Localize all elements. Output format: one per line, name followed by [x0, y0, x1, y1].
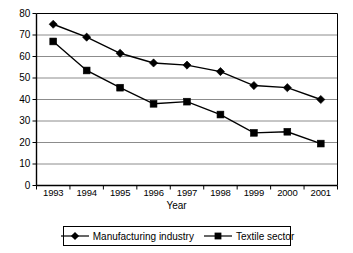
x-tick-label: 2001: [301, 188, 341, 198]
plot-canvas: [0, 0, 353, 253]
legend-label: Textile sector: [236, 231, 294, 242]
data-series-layer: [49, 20, 325, 147]
y-tick-label: 50: [4, 73, 30, 83]
y-tick-label: 10: [4, 159, 30, 169]
legend-diamond-marker-icon: [60, 230, 90, 242]
chart-legend: Manufacturing industryTextile sector: [63, 226, 291, 246]
x-axis-title: Year: [0, 200, 353, 211]
y-tick-label: 60: [4, 52, 30, 62]
line-chart: 80706050403020100 1993199419951996199719…: [0, 0, 353, 253]
legend-item-manufacturing-industry[interactable]: Manufacturing industry: [60, 230, 194, 242]
y-tick-label: 0: [4, 181, 30, 191]
y-tick-label: 70: [4, 30, 30, 40]
legend-item-textile-sector[interactable]: Textile sector: [203, 230, 294, 242]
y-tick-label: 40: [4, 95, 30, 105]
legend-square-marker-icon: [203, 230, 233, 242]
y-tick-label: 30: [4, 116, 30, 126]
y-tick-label: 80: [4, 9, 30, 19]
legend-label: Manufacturing industry: [93, 231, 194, 242]
y-tick-label: 20: [4, 138, 30, 148]
